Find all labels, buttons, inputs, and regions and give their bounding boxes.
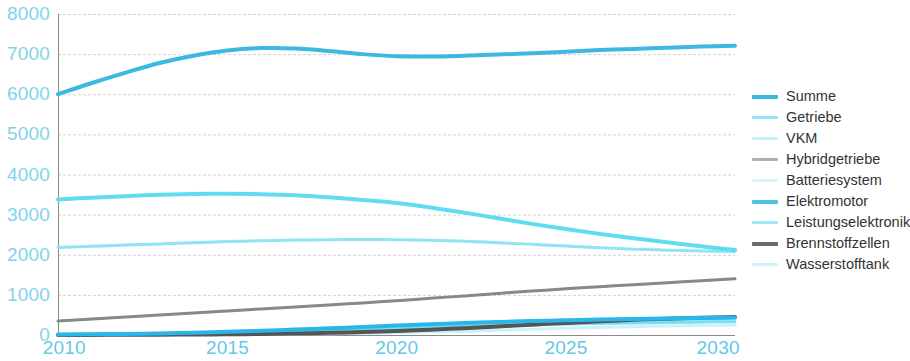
legend-item[interactable]: Batteriesystem	[752, 170, 906, 191]
legend-line-swatch	[752, 242, 778, 246]
legend-item-label: Getriebe	[786, 110, 842, 125]
legend-line-swatch	[752, 179, 778, 182]
legend-item-label: Wasserstofftank	[786, 257, 889, 272]
plot-area: 010002000300040005000600070008000 201020…	[0, 0, 740, 361]
legend-line-swatch	[752, 200, 778, 204]
x-axis-tick-label: 2030	[697, 338, 740, 357]
x-axis-tick-label: 2020	[375, 338, 418, 357]
legend-item-label: Elektromotor	[786, 194, 868, 209]
legend-item-label: Brennstoffzellen	[786, 236, 890, 251]
legend-item[interactable]: Hybridgetriebe	[752, 149, 906, 170]
legend-item[interactable]: Wasserstofftank	[752, 254, 906, 275]
legend-item[interactable]: Leistungselektronik	[752, 212, 906, 233]
legend-line-swatch	[752, 263, 778, 266]
legend-item[interactable]: Elektromotor	[752, 191, 906, 212]
legend-item-label: Batteriesystem	[786, 173, 882, 188]
legend-line-swatch	[752, 95, 778, 99]
legend-item[interactable]: Summe	[752, 86, 906, 107]
legend-item[interactable]: Brennstoffzellen	[752, 233, 906, 254]
legend-item[interactable]: VKM	[752, 128, 906, 149]
legend-item-label: Hybridgetriebe	[786, 152, 880, 167]
legend-line-swatch	[752, 137, 778, 140]
legend-item-label: Summe	[786, 89, 836, 104]
x-axis-labels: 20102015202020252030	[0, 0, 740, 361]
x-axis-tick-label: 2010	[43, 338, 86, 357]
x-axis-tick-label: 2015	[206, 338, 249, 357]
legend-item[interactable]: Getriebe	[752, 107, 906, 128]
legend-line-swatch	[752, 158, 778, 161]
legend-line-swatch	[752, 116, 778, 119]
legend-item-label: VKM	[786, 131, 817, 146]
x-axis-tick-label: 2025	[545, 338, 588, 357]
legend-item-label: Leistungselektronik	[786, 215, 910, 230]
legend-line-swatch	[752, 221, 778, 224]
chart-legend: SummeGetriebeVKMHybridgetriebeBatteriesy…	[752, 86, 906, 275]
